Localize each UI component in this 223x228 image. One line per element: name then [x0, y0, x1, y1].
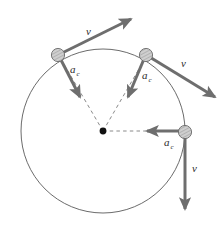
acceleration-subscript-right: c [171, 143, 175, 151]
velocity-label-right: v [192, 162, 197, 174]
circular-motion-figure: v a c v a c v a c [0, 0, 223, 228]
acceleration-subscript-top-right: c [149, 76, 153, 84]
particle-top-left-group: v a c [51, 19, 131, 97]
acceleration-label-top-left: a [70, 63, 76, 75]
ball-top-left [51, 48, 64, 61]
center-dot [100, 128, 107, 135]
particle-right-group: v a c [147, 125, 197, 209]
diagram-canvas: v a c v a c v a c [0, 0, 223, 228]
ball-right [178, 125, 191, 138]
velocity-label-top-right: v [181, 57, 186, 69]
acceleration-label-right: a [164, 136, 170, 148]
particle-top-right-group: v a c [128, 48, 215, 97]
acceleration-label-top-right: a [142, 69, 148, 81]
acceleration-subscript-top-left: c [77, 70, 81, 78]
ball-top-right [139, 48, 152, 61]
velocity-label-top-left: v [86, 25, 91, 37]
